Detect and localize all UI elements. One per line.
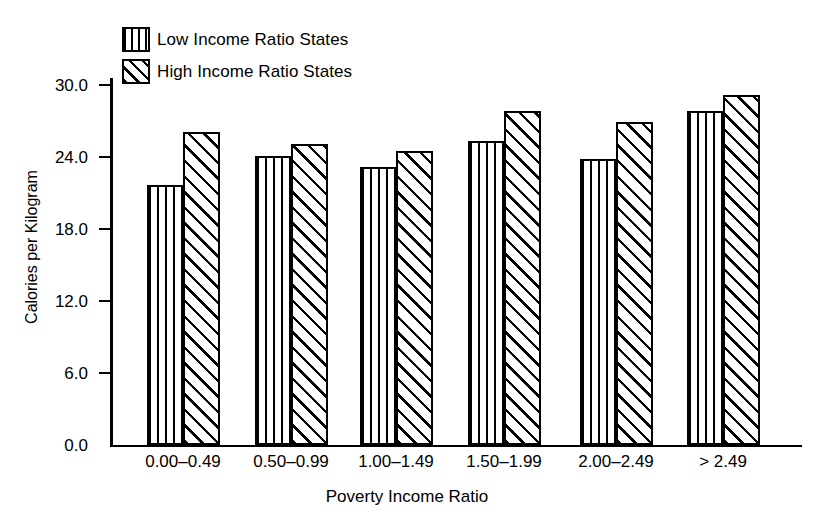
bar-high-income (504, 111, 541, 445)
x-axis-tick-label: > 2.49 (699, 452, 747, 472)
x-axis-tick-label: 2.00–2.49 (578, 452, 654, 472)
bar-low-income (687, 111, 724, 445)
bar-low-income (360, 167, 397, 445)
bar-high-income (396, 151, 433, 445)
bar-low-income (147, 185, 184, 445)
y-axis-title: Calories per Kilogram (23, 137, 41, 357)
x-axis-tick-label: 1.50–1.99 (466, 452, 542, 472)
bar-high-income (183, 132, 220, 445)
bar-low-income (468, 141, 505, 445)
x-axis-tick-label: 1.00–1.49 (358, 452, 434, 472)
bar-chart: Low Income Ratio States High Income Rati… (0, 0, 814, 518)
x-axis-title: Poverty Income Ratio (0, 487, 814, 507)
bar-high-income (616, 122, 653, 445)
bar-low-income (580, 159, 617, 445)
bar-high-income (723, 95, 760, 445)
x-axis-tick-label: 0.50–0.99 (253, 452, 329, 472)
x-axis-tick-label: 0.00–0.49 (145, 452, 221, 472)
bar-low-income (255, 156, 292, 445)
bar-high-income (291, 144, 328, 445)
